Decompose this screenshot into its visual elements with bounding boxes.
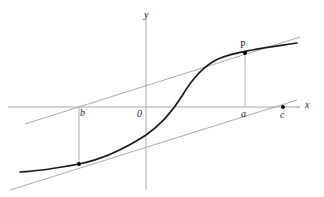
marker-dot-P bbox=[243, 51, 247, 55]
label-a: a bbox=[241, 109, 246, 119]
marker-dot-b bbox=[77, 162, 81, 166]
x-axis-label: x bbox=[305, 100, 309, 110]
label-c: c bbox=[280, 110, 284, 120]
label-b: b bbox=[80, 108, 85, 118]
lower-secant-line bbox=[10, 100, 297, 190]
figure-canvas bbox=[0, 0, 324, 197]
y-axis-label: y bbox=[144, 10, 148, 20]
math-figure: y x 0 b a c P bbox=[0, 0, 324, 197]
origin-label: 0 bbox=[137, 109, 142, 119]
upper-secant-line bbox=[25, 37, 300, 124]
label-P: P bbox=[240, 40, 246, 50]
